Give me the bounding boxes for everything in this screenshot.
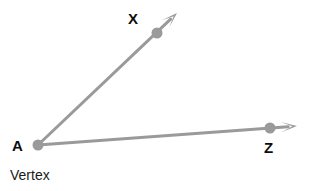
point-label-a: A — [12, 138, 23, 153]
angle-diagram-svg — [0, 0, 309, 191]
point-dot-x — [152, 28, 163, 39]
vertex-point-dot-a — [33, 140, 44, 151]
ray-ax-line — [38, 19, 171, 145]
point-label-z: Z — [264, 140, 273, 155]
vertex-caption-label: Vertex — [10, 168, 50, 182]
ray-az-group — [38, 122, 297, 145]
point-dot-z — [265, 123, 276, 134]
diagram-canvas: A X Z Vertex — [0, 0, 309, 191]
point-label-x: X — [128, 11, 138, 26]
ray-az-line — [38, 127, 288, 145]
